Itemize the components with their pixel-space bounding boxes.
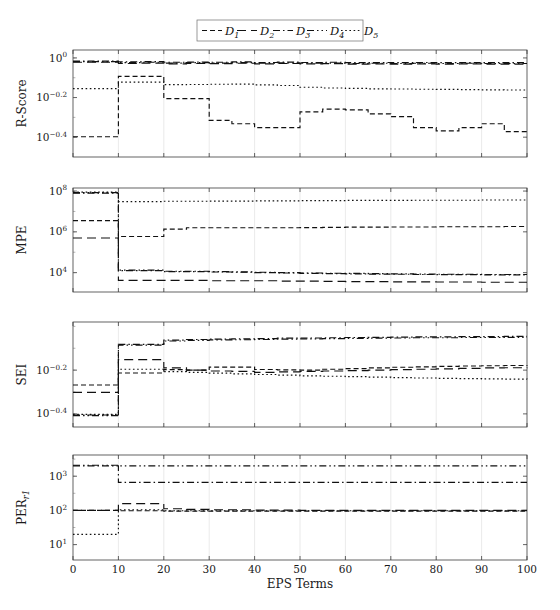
ylabel-per: PERr1 [15,490,31,525]
ytick-label: 106 [49,224,67,237]
xtick-label: 30 [203,563,216,575]
xtick-label: 20 [157,563,170,575]
ytick-label: 102 [49,503,67,516]
ytick-label: 100 [49,50,67,63]
xtick-label: 80 [430,563,443,575]
xtick-label: 40 [248,563,261,575]
ylabel-mpe: MPE [15,225,29,254]
xtick-label: 100 [517,563,537,575]
legend-label-d5: D5 [363,24,378,40]
xtick-label: 50 [293,563,306,575]
ytick-label: 10−0.4 [36,130,67,143]
ytick-label: 101 [49,537,67,550]
ytick-label: 10−0.4 [36,406,67,419]
ytick-label: 108 [49,183,67,196]
ytick-label: 104 [49,265,67,278]
xlabel: EPS Terms [267,577,333,591]
xtick-label: 0 [70,563,77,575]
xtick-label: 70 [384,563,397,575]
xtick-label: 90 [475,563,488,575]
ytick-label: 10−0.2 [36,90,67,103]
xtick-label: 60 [339,563,352,575]
ylabel-sei: SEI [15,363,29,385]
ytick-label: 10−0.2 [36,363,67,376]
xtick-label: 10 [112,563,125,575]
ytick-label: 103 [49,469,67,482]
ylabel-r-score: R-Score [15,79,29,127]
figure-root: D1D2D3D4D510010−0.210−0.4R-Score10810610… [0,0,560,610]
